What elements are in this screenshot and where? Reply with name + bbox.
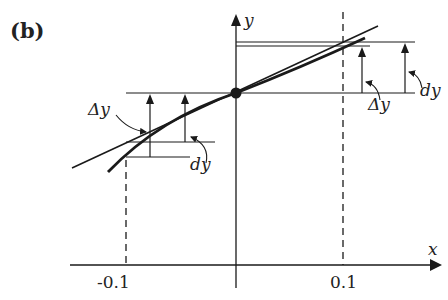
arrowhead-icon [146, 94, 154, 104]
left-delta-y-label: Δy [87, 99, 110, 119]
y-axis-arrow-icon [231, 14, 241, 26]
right-delta-y-label: Δy [367, 94, 390, 114]
right-dy-label: dy [420, 80, 441, 100]
x-axis-label: x [428, 239, 438, 259]
arrowhead-icon [358, 47, 366, 57]
left-dy-label: dy [190, 154, 211, 174]
tangency-point [231, 88, 242, 99]
x-tick-neg: -0.1 [97, 272, 130, 292]
y-axis-label: y [243, 10, 254, 30]
x-axis-arrow-icon [430, 259, 442, 271]
differential-diagram: (b) x y -0.1 0.1 [0, 0, 448, 300]
arrowhead-icon [401, 43, 409, 53]
x-tick-pos: 0.1 [330, 272, 357, 292]
arrowhead-icon [181, 94, 189, 104]
left-delta-y-leader [116, 115, 146, 132]
panel-label: (b) [10, 18, 45, 43]
y-axis [231, 14, 241, 288]
